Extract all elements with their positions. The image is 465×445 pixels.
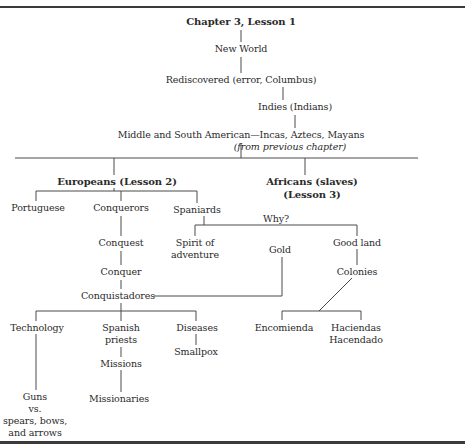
node-spanish-priests-line2: priests xyxy=(105,334,137,347)
node-africans-line2: (Lesson 3) xyxy=(283,189,341,202)
connector-lines xyxy=(0,0,465,445)
node-technology: Technology xyxy=(10,322,64,335)
node-haciendas-line2: Hacendado xyxy=(329,334,383,347)
node-missions: Missions xyxy=(100,358,141,371)
node-spirit-line1: Spirit of xyxy=(176,237,214,250)
node-colonies: Colonies xyxy=(337,266,378,279)
node-europeans: Europeans (Lesson 2) xyxy=(57,176,177,189)
node-guns-line1: Guns xyxy=(23,391,47,404)
node-smallpox: Smallpox xyxy=(174,346,218,359)
node-indies: Indies (Indians) xyxy=(258,101,332,114)
node-spaniards: Spaniards xyxy=(173,204,221,217)
node-new-world: New World xyxy=(215,43,268,56)
node-gold: Gold xyxy=(269,244,291,257)
node-middle-south-american: Middle and South American—Incas, Aztecs,… xyxy=(118,129,365,142)
bottom-rule xyxy=(0,441,465,444)
node-africans-line1: Africans (slaves) xyxy=(266,176,357,189)
node-missionaries: Missionaries xyxy=(89,393,149,406)
node-good-land: Good land xyxy=(333,237,381,250)
node-spirit-line2: adventure xyxy=(171,249,219,262)
node-guns-line2: vs. xyxy=(29,403,42,416)
node-from-previous-chapter: (from previous chapter) xyxy=(234,141,346,154)
node-guns-line3: spears, bows, xyxy=(3,415,67,428)
node-spanish-priests-line1: Spanish xyxy=(102,322,140,335)
node-guns-line4: and arrows xyxy=(8,427,61,440)
node-portuguese: Portuguese xyxy=(11,202,65,215)
node-conquerors: Conquerors xyxy=(93,202,149,215)
node-conquest: Conquest xyxy=(99,237,144,250)
node-rediscovered: Rediscovered (error, Columbus) xyxy=(166,74,317,87)
node-haciendas-line1: Haciendas xyxy=(331,322,381,335)
node-conquer: Conquer xyxy=(101,266,142,279)
node-diseases: Diseases xyxy=(176,322,217,335)
node-conquistadores: Conquistadores xyxy=(81,290,155,303)
node-why: Why? xyxy=(263,213,289,226)
node-encomienda: Encomienda xyxy=(255,322,314,335)
node-chapter-3-lesson-1: Chapter 3, Lesson 1 xyxy=(186,16,296,29)
